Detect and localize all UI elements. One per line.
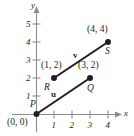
- point-R-dot: [51, 75, 57, 81]
- vector-label-u: u: [51, 90, 56, 99]
- point-S-dot: [105, 39, 111, 45]
- coord-label-S: (4, 4): [87, 25, 108, 35]
- point-label-R: R: [44, 83, 50, 93]
- point-label-P: P: [30, 100, 36, 110]
- coord-label-Q: (3, 2): [78, 61, 99, 71]
- coord-label-P: (0, 0): [7, 118, 28, 128]
- point-label-S: S: [105, 47, 110, 57]
- x-axis-arrowhead: [115, 112, 122, 118]
- y-tick-label-5: 5: [26, 20, 31, 29]
- vector-diagram-figure: y x 1 2 3 4 5 1 2 3 4 P Q R S (0, 0) (3,…: [0, 0, 134, 136]
- coordinate-plane-svg: [0, 0, 134, 136]
- y-tick-label-4: 4: [26, 38, 31, 47]
- x-axis: [12, 111, 122, 119]
- point-Q-dot: [87, 75, 93, 81]
- point-P-dot: [34, 111, 40, 117]
- x-tick-label-2: 2: [70, 121, 75, 130]
- x-tick-label-4: 4: [106, 121, 111, 130]
- x-axis-label: x: [124, 109, 128, 118]
- x-tick-label-1: 1: [52, 121, 57, 130]
- y-tick-label-2: 2: [26, 74, 31, 83]
- point-label-Q: Q: [87, 84, 94, 94]
- y-tick-label-3: 3: [26, 56, 31, 65]
- x-tick-label-3: 3: [88, 121, 93, 130]
- coord-label-R: (1, 2): [41, 61, 62, 71]
- vector-label-v: v: [73, 51, 78, 60]
- y-axis-label: y: [31, 1, 35, 10]
